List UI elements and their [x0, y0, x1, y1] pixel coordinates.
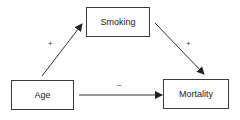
arrow-age-to-smoking: [42, 24, 82, 76]
node-age: Age: [11, 80, 74, 110]
node-smoking-label: Smoking: [100, 17, 135, 27]
node-smoking: Smoking: [86, 7, 150, 37]
node-mortality: Mortality: [163, 79, 229, 109]
node-mortality-label: Mortality: [179, 89, 213, 99]
sign-age-smoking: +: [48, 40, 53, 48]
node-age-label: Age: [34, 90, 50, 100]
sign-smoking-mortality: +: [186, 40, 191, 48]
arrow-smoking-to-mortality: [155, 23, 204, 74]
sign-age-mortality: –: [117, 81, 121, 89]
